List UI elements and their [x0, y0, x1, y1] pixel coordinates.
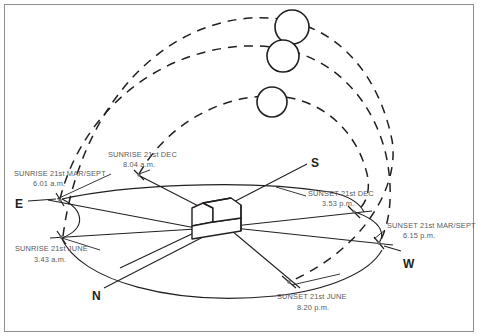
sun-mid-icon: [267, 40, 299, 72]
ray-sunset-mar-sept: [234, 228, 393, 245]
sun-path-svg: SUNRISE 21st MAR/SEPT 6.01 a.m. SUNRISE …: [0, 0, 478, 336]
ray-sunset-june: [232, 231, 300, 288]
time-sunrise-mar-sept: 6.01 a.m.: [33, 179, 65, 188]
label-sunset-mar-sept: SUNSET 21st MAR/SEPT: [387, 221, 476, 230]
time-sunrise-june: 3.43 a.m.: [34, 255, 66, 264]
diagram-frame: [5, 5, 474, 332]
ray-front-left: [120, 232, 196, 268]
ground-ellipse: [61, 237, 382, 298]
compass-label-north: N: [92, 289, 101, 303]
compass-label-south: S: [311, 156, 319, 170]
sun-low-icon: [257, 87, 287, 117]
label-sunset-dec: SUNSET 21st DEC: [308, 189, 374, 198]
label-sunrise-dec: SUNRISE 21st DEC: [108, 150, 177, 159]
dot-sunrise-mar-sept: [58, 198, 61, 201]
compass-label-east: E: [15, 197, 23, 211]
compass-stem-west: [384, 246, 401, 251]
time-sunset-mar-sept: 6.15 p.m.: [403, 231, 435, 240]
compass-label-west: W: [403, 257, 415, 271]
dot-sunset-june: [287, 280, 290, 283]
time-sunrise-dec: 8.04 a.m.: [123, 160, 155, 169]
building-house: [192, 198, 241, 239]
event-labels: SUNRISE 21st MAR/SEPT 6.01 a.m. SUNRISE …: [14, 150, 476, 312]
label-sunset-june: SUNSET 21st JUNE: [277, 292, 347, 301]
sun-path-diagram: SUNRISE 21st MAR/SEPT 6.01 a.m. SUNRISE …: [0, 0, 478, 336]
time-sunset-dec: 3.53 p.m.: [322, 199, 354, 208]
sun-discs: [257, 10, 309, 117]
dot-sunset-mar-sept: [377, 241, 380, 244]
label-sunrise-mar-sept: SUNRISE 21st MAR/SEPT: [14, 169, 106, 178]
dot-sunset-dec: [352, 210, 355, 213]
ray-sunrise-mar-sept: [48, 200, 196, 228]
ray-sunset-dec: [234, 211, 372, 226]
ray-north: [104, 236, 205, 288]
label-sunrise-june: SUNRISE 21st JUNE: [15, 244, 88, 253]
ray-sunrise-june: [50, 229, 196, 238]
sun-high-icon: [275, 10, 309, 44]
time-sunset-june: 8.20 p.m.: [297, 303, 329, 312]
